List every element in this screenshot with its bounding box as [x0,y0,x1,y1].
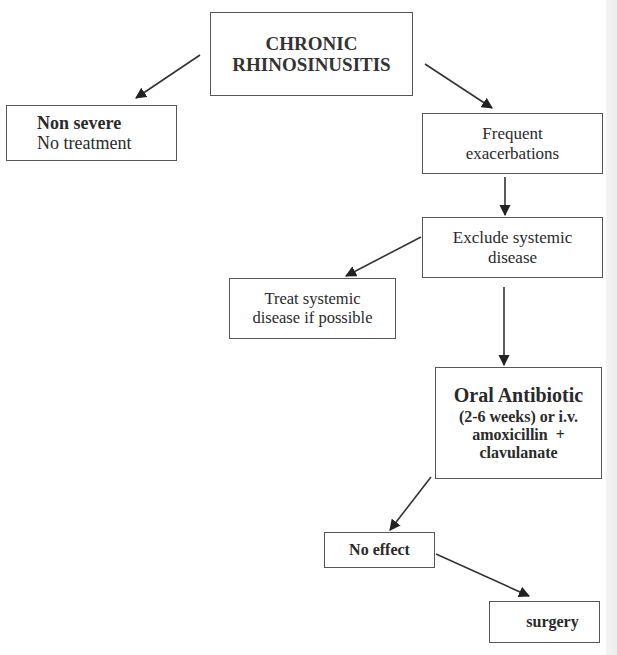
arrow-chronic-to-frequent [425,64,492,108]
node-treat-systemic-disease: Treat systemic disease if possible [229,278,396,339]
node-chronic-rhinosinusitis: CHRONIC RHINOSINUSITIS [210,12,413,96]
node-text: CHRONIC [266,33,358,54]
node-text: clavulanate [479,444,557,462]
node-text: No effect [349,541,410,559]
node-text: Exclude systemic [453,228,572,247]
arrow-noeffect-to-surgery [436,554,529,596]
node-title: Oral Antibiotic [454,384,583,406]
node-non-severe: Non severe No treatment [6,105,177,161]
node-text: (2-6 weeks) or i.v. [459,408,578,426]
node-title: Non severe [37,113,121,133]
node-text: disease [488,248,537,267]
node-no-effect: No effect [324,532,435,568]
node-text: disease if possible [252,309,372,327]
node-text: No treatment [37,133,131,153]
arrow-oral-to-noeffect [390,477,431,530]
node-text: Treat systemic [264,290,360,308]
node-frequent-exacerbations: Frequent exacerbations [422,113,603,174]
node-oral-antibiotic: Oral Antibiotic (2-6 weeks) or i.v. amox… [435,367,602,479]
node-exclude-systemic-disease: Exclude systemic disease [422,217,603,278]
arrow-chronic-to-nonsevere [136,55,200,98]
node-text: amoxicillin + [472,426,565,444]
node-surgery: surgery [489,601,600,643]
node-text: Frequent [482,124,542,143]
arrow-exclude-to-treat [346,237,421,276]
node-text: surgery [526,613,578,631]
node-text: exacerbations [466,144,559,163]
node-text: RHINOSINUSITIS [232,54,390,75]
